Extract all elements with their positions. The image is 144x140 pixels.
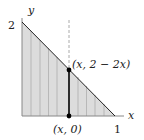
bottom-point-marker [67,114,72,119]
top-point-label: (x, 2 − 2x) [72,58,130,71]
x-tick-label: 1 [114,123,121,136]
y-tick-label: 2 [8,19,15,32]
diagram-canvas: y 2 x 1 (x, 2 − 2x) (x, 0) [0,0,144,140]
y-axis-label: y [27,4,35,17]
x-axis-label: x [128,109,135,122]
bottom-point-label: (x, 0) [53,123,82,136]
top-point-marker [67,68,72,73]
